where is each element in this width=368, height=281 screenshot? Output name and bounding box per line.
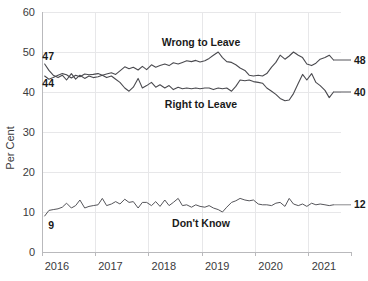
chart-container: 0102030405060 201620172018201920202021 4… (0, 0, 368, 281)
endpoint-label-left-9: 9 (48, 219, 54, 231)
series-line-wrong-to-leave (45, 52, 334, 79)
y-tick-label: 10 (23, 206, 35, 218)
y-tick-labels-group: 0102030405060 (23, 6, 35, 258)
series-label-wrong-to-leave: Wrong to Leave (162, 36, 241, 48)
series-label-right-to-leave: Right to Leave (165, 98, 238, 110)
endpoint-label-right-12: 12 (354, 198, 366, 210)
y-tick-label: 0 (29, 246, 35, 258)
line-chart: 0102030405060 201620172018201920202021 4… (0, 0, 368, 281)
x-tick-label: 2016 (45, 260, 69, 272)
x-tick-labels-group: 201620172018201920202021 (45, 260, 336, 272)
y-axis-title: Per Cent (4, 126, 16, 169)
y-tick-label: 30 (23, 126, 35, 138)
series-line-right-to-leave (45, 64, 334, 101)
x-tick-label: 2020 (258, 260, 282, 272)
tick-marks-group (42, 252, 351, 256)
y-tick-label: 50 (23, 46, 35, 58)
x-tick-label: 2017 (98, 260, 122, 272)
x-tick-label: 2019 (205, 260, 229, 272)
y-tick-label: 60 (23, 6, 35, 18)
series-lines-group (45, 52, 334, 216)
y-tick-label: 20 (23, 166, 35, 178)
endpoint-label-left-47: 47 (42, 50, 54, 62)
endpoint-label-right-40: 40 (354, 86, 366, 98)
gridlines-group (42, 12, 341, 252)
x-tick-label: 2021 (312, 260, 336, 272)
series-line-don-t-know (45, 198, 334, 216)
x-tick-label: 2018 (152, 260, 176, 272)
endpoint-label-left-44: 44 (42, 77, 54, 89)
y-tick-label: 40 (23, 86, 35, 98)
endpoint-label-right-48: 48 (354, 54, 366, 66)
series-label-dont-know: Don't Know (172, 217, 231, 229)
